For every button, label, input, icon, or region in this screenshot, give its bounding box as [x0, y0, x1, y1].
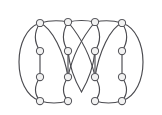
graph-node [118, 97, 125, 104]
graph-figure [0, 0, 162, 115]
figure-background [0, 0, 162, 115]
graph-node [36, 19, 43, 26]
graph-node [118, 73, 125, 80]
graph-node [64, 97, 71, 104]
graph-node [64, 18, 71, 25]
graph-node [118, 19, 125, 26]
graph-node [36, 97, 43, 104]
graph-node [91, 18, 98, 25]
graph-node [64, 73, 71, 80]
graph-node [118, 47, 125, 54]
graph-node [64, 47, 71, 54]
graph-node [36, 73, 43, 80]
graph-node [91, 47, 98, 54]
graph-node [91, 97, 98, 104]
graph-canvas [0, 0, 162, 115]
graph-node [91, 73, 98, 80]
graph-node [36, 47, 43, 54]
